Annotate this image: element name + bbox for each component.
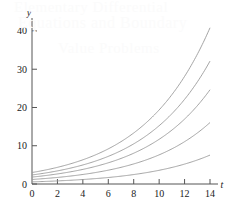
line-chart-plot: 010203040 02468101214 y t (0, 0, 229, 212)
curves-group (32, 28, 210, 182)
y-tick-label: 0 (22, 179, 27, 190)
y-tick-label: 40 (17, 25, 27, 36)
x-tick-label: 2 (55, 188, 60, 199)
axes-group (32, 18, 218, 184)
figure-container: Elementary Differential Equations and Bo… (0, 0, 229, 212)
y-ticks-group: 010203040 (17, 25, 37, 189)
y-axis-label: y (26, 7, 32, 18)
x-tick-label: 8 (131, 188, 136, 199)
curve-curve-5 (32, 155, 210, 182)
y-tick-label: 10 (17, 140, 27, 151)
y-tick-label: 30 (17, 64, 27, 75)
x-tick-label: 6 (106, 188, 111, 199)
x-tick-label: 0 (30, 188, 35, 199)
x-tick-label: 10 (154, 188, 164, 199)
x-ticks-group: 02468101214 (30, 179, 216, 199)
curve-curve-3 (32, 90, 210, 177)
x-axis-label: t (221, 179, 224, 190)
x-tick-label: 12 (180, 188, 190, 199)
x-tick-label: 14 (205, 188, 215, 199)
y-tick-label: 20 (17, 102, 27, 113)
x-tick-label: 4 (80, 188, 85, 199)
